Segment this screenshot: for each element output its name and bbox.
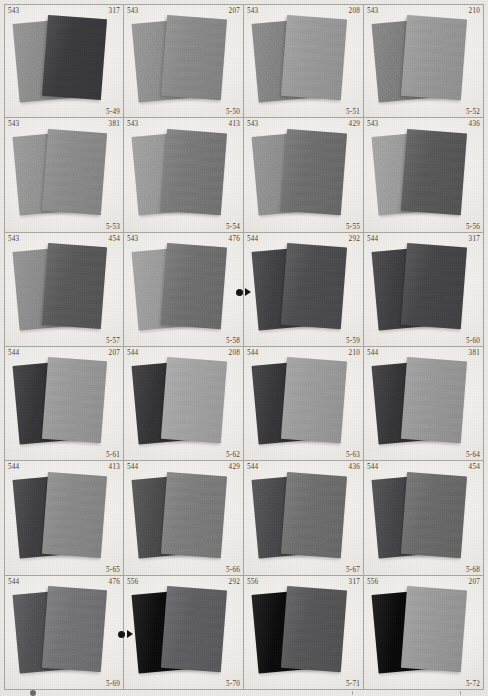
registration-arrow-icon xyxy=(245,288,251,296)
swatch-cell: 5442925-59 xyxy=(244,233,364,347)
swatch-cell: 5563175-71 xyxy=(244,576,364,690)
swatch-grid: 5433175-495432075-505432085-515432105-52… xyxy=(4,4,484,690)
swatch-cell-inner: 5434545-57 xyxy=(5,233,123,346)
swatch-code-left: 556 xyxy=(367,578,378,586)
swatch-code-right: 317 xyxy=(349,578,360,586)
swatch-front xyxy=(161,586,227,672)
swatch-code-right: 207 xyxy=(109,349,120,357)
swatch-cell: 5434765-58 xyxy=(124,233,244,347)
scan-edge-tick xyxy=(460,691,461,695)
swatch-code-left: 543 xyxy=(127,235,138,243)
swatch-code-left: 543 xyxy=(8,120,19,128)
swatch-code-left: 543 xyxy=(8,235,19,243)
swatch-code-left: 544 xyxy=(367,235,378,243)
swatch-code-right: 207 xyxy=(469,578,480,586)
swatch-code-right: 381 xyxy=(109,120,120,128)
swatch-code-right: 317 xyxy=(469,235,480,243)
registration-marker-row6 xyxy=(118,630,133,638)
swatch-cell: 5434295-55 xyxy=(244,118,364,232)
swatch-cell-inner: 5434135-54 xyxy=(124,118,243,231)
swatch-code-right: 381 xyxy=(469,349,480,357)
swatch-cell: 5562075-72 xyxy=(364,576,484,690)
swatch-code-right: 413 xyxy=(229,120,240,128)
swatch-cell: 5444545-68 xyxy=(364,461,484,575)
swatch-code-left: 543 xyxy=(247,120,258,128)
swatch-code-right: 208 xyxy=(349,7,360,15)
swatch-cell-inner: 5433815-53 xyxy=(5,118,123,231)
swatch-code-left: 544 xyxy=(127,349,138,357)
swatch-front xyxy=(401,129,467,215)
scan-edge-tick xyxy=(352,691,353,695)
swatch-cell-inner: 5443175-60 xyxy=(364,233,483,346)
swatch-front xyxy=(281,129,347,215)
plate-number: 5-71 xyxy=(346,680,360,688)
swatch-cell: 5432105-52 xyxy=(364,4,484,118)
swatch-code-right: 292 xyxy=(229,578,240,586)
swatch-code-left: 544 xyxy=(367,463,378,471)
swatch-code-right: 454 xyxy=(109,235,120,243)
swatch-code-left: 543 xyxy=(127,120,138,128)
catalog-page: 5433175-495432075-505432085-515432105-52… xyxy=(0,0,488,696)
plate-number: 5-66 xyxy=(226,566,240,574)
swatch-front xyxy=(42,586,107,672)
swatch-front xyxy=(401,243,467,329)
plate-number: 5-52 xyxy=(466,108,480,116)
swatch-code-right: 413 xyxy=(109,463,120,471)
plate-number: 5-69 xyxy=(106,680,120,688)
swatch-cell-inner: 5434295-55 xyxy=(244,118,363,231)
swatch-cell-inner: 5444295-66 xyxy=(124,461,243,574)
swatch-cell: 5433815-53 xyxy=(4,118,124,232)
swatch-front xyxy=(281,357,347,443)
swatch-front xyxy=(161,243,227,329)
plate-number: 5-72 xyxy=(466,680,480,688)
swatch-cell-inner: 5434765-58 xyxy=(124,233,243,346)
swatch-code-right: 429 xyxy=(229,463,240,471)
plate-number: 5-55 xyxy=(346,223,360,231)
swatch-front xyxy=(401,472,467,558)
swatch-code-right: 208 xyxy=(229,349,240,357)
swatch-code-left: 556 xyxy=(127,578,138,586)
plate-number: 5-63 xyxy=(346,451,360,459)
plate-number: 5-59 xyxy=(346,337,360,345)
plate-number: 5-57 xyxy=(106,337,120,345)
swatch-cell-inner: 5563175-71 xyxy=(244,576,363,689)
swatch-front xyxy=(401,15,467,100)
swatch-cell: 5443175-60 xyxy=(364,233,484,347)
swatch-front xyxy=(161,472,227,558)
swatch-code-left: 544 xyxy=(247,235,258,243)
plate-number: 5-51 xyxy=(346,108,360,116)
swatch-cell-inner: 5432075-50 xyxy=(124,5,243,117)
swatch-front xyxy=(401,586,467,672)
swatch-cell: 5433175-49 xyxy=(4,4,124,118)
swatch-cell-inner: 5432105-52 xyxy=(364,5,483,117)
swatch-cell: 5434545-57 xyxy=(4,233,124,347)
plate-number: 5-53 xyxy=(106,223,120,231)
plate-number: 5-65 xyxy=(106,566,120,574)
swatch-cell: 5562925-70 xyxy=(124,576,244,690)
swatch-front xyxy=(161,15,227,100)
swatch-front xyxy=(281,243,347,329)
swatch-code-left: 544 xyxy=(247,463,258,471)
plate-number: 5-58 xyxy=(226,337,240,345)
swatch-code-left: 544 xyxy=(8,349,19,357)
plate-number: 5-67 xyxy=(346,566,360,574)
swatch-code-right: 436 xyxy=(349,463,360,471)
swatch-cell: 5443815-64 xyxy=(364,347,484,461)
plate-number: 5-54 xyxy=(226,223,240,231)
plate-number: 5-70 xyxy=(226,680,240,688)
swatch-code-left: 544 xyxy=(367,349,378,357)
swatch-cell: 5444135-65 xyxy=(4,461,124,575)
swatch-front xyxy=(42,357,107,443)
swatch-front xyxy=(281,586,347,672)
plate-number: 5-49 xyxy=(106,108,120,116)
swatch-cell: 5434135-54 xyxy=(124,118,244,232)
swatch-cell: 5444295-66 xyxy=(124,461,244,575)
swatch-cell: 5434365-56 xyxy=(364,118,484,232)
plate-number: 5-64 xyxy=(466,451,480,459)
plate-number: 5-61 xyxy=(106,451,120,459)
swatch-code-left: 544 xyxy=(127,463,138,471)
swatch-code-right: 317 xyxy=(109,7,120,15)
swatch-code-right: 436 xyxy=(469,120,480,128)
scan-edge-dot xyxy=(30,690,36,696)
swatch-front xyxy=(161,129,227,215)
